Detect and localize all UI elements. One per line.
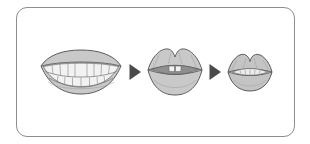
mouth-sequence-row [16,7,295,137]
screenshot-root [0,0,310,144]
mouth-stage-1-wide-open [38,47,124,97]
mouth-stage-2-medium-open [146,44,204,100]
mouth-stage-3-pursed [226,50,274,94]
progression-arrow-2 [208,63,222,81]
progression-arrow-1 [128,63,142,81]
